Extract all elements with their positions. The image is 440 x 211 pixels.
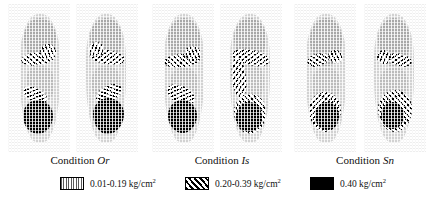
legend-label-high: 0.40 kg/cm2 (340, 177, 386, 189)
foot-outline (86, 14, 126, 142)
foot-outline (230, 14, 270, 142)
foot-outline (374, 14, 414, 142)
high-pressure-heel-blob (315, 102, 339, 130)
legend-exponent-high: 2 (383, 177, 386, 184)
foot-outline (164, 14, 204, 142)
condition-caption-or-abbr: Or (97, 154, 109, 166)
plantar-pressure-figure: Condition Or Condition Is Condition Sn 0… (0, 0, 440, 211)
condition-caption-or: Condition Or (16, 154, 144, 166)
footprint-panel-sn-right (364, 4, 426, 152)
condition-caption-sn-abbr: Sn (383, 154, 394, 166)
legend-item-mid: 0.20-0.39 kg/cm2 (185, 177, 281, 190)
legend-item-low: 0.01-0.19 kg/cm2 (60, 177, 156, 190)
condition-caption-is-prefix: Condition (195, 154, 239, 166)
footprint-panel-is-right (220, 4, 282, 152)
legend-unit-high: kg/cm (359, 180, 383, 190)
condition-group-is (152, 4, 288, 152)
condition-group-or (8, 4, 144, 152)
footprint-panel-or-right (76, 4, 138, 152)
foot-outline (20, 14, 60, 142)
legend-exponent-mid: 2 (278, 177, 281, 184)
legend-unit-low: kg/cm (129, 180, 153, 190)
condition-group-sn (294, 4, 432, 152)
footprint-panel-sn-left (294, 4, 356, 152)
high-pressure-heel-blob (381, 102, 404, 129)
legend-range-mid: 0.20-0.39 (215, 180, 251, 190)
footprint-panel-row (0, 4, 440, 152)
solid-black-swatch-icon (310, 177, 334, 190)
legend-range-low: 0.01-0.19 (90, 180, 126, 190)
pressure-legend: 0.01-0.19 kg/cm2 0.20-0.39 kg/cm2 0.40 k… (0, 177, 440, 197)
legend-unit-mid: kg/cm (254, 180, 278, 190)
footprint-panel-is-left (152, 4, 214, 152)
high-pressure-heel-blob (236, 102, 262, 132)
legend-item-high: 0.40 kg/cm2 (310, 177, 386, 190)
legend-range-high: 0.40 (340, 180, 357, 190)
foot-outline (306, 14, 346, 142)
footprint-panel-or-left (8, 4, 70, 152)
condition-caption-is: Condition Is (158, 154, 286, 166)
stipple-light-swatch-icon (60, 177, 84, 190)
diagonal-hatch-swatch-icon (185, 177, 209, 190)
legend-exponent-low: 2 (153, 177, 156, 184)
condition-caption-is-abbr: Is (241, 154, 249, 166)
condition-caption-sn: Condition Sn (300, 154, 430, 166)
legend-label-low: 0.01-0.19 kg/cm2 (90, 177, 156, 189)
condition-caption-sn-prefix: Condition (336, 154, 380, 166)
legend-label-mid: 0.20-0.39 kg/cm2 (215, 177, 281, 189)
condition-caption-or-prefix: Condition (51, 154, 95, 166)
